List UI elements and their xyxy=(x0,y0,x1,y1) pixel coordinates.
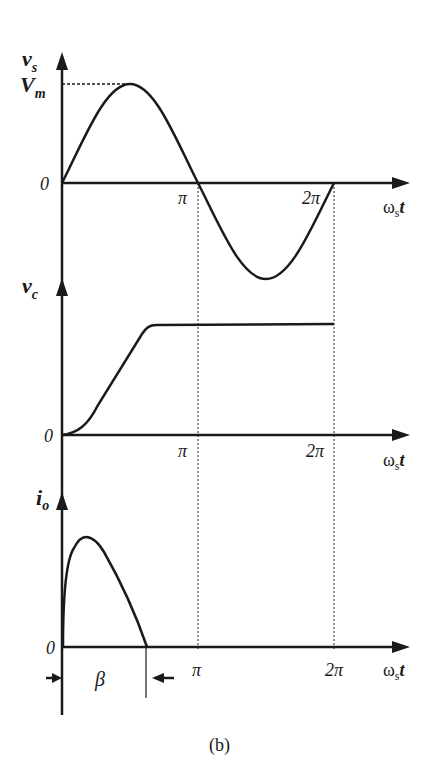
vc-x-axis-arrow-icon xyxy=(392,429,410,441)
vs-pi-tick: π xyxy=(178,188,188,208)
vs-x-label: ωst xyxy=(383,197,406,220)
io-2pi-tick: 2π xyxy=(325,660,344,680)
vc-zero-label: 0 xyxy=(44,426,53,446)
vs-axis-arrow-icon xyxy=(56,52,68,70)
beta-left-arrow-icon xyxy=(52,673,62,683)
vs-curve xyxy=(62,84,334,279)
beta-right-arrow-icon xyxy=(152,673,164,683)
io-pi-tick: π xyxy=(192,660,202,680)
io-curve xyxy=(63,537,147,647)
vc-pi-tick: π xyxy=(178,441,188,461)
io-zero-label: 0 xyxy=(46,638,55,658)
vc-x-label: ωst xyxy=(383,450,406,473)
vc-axis-arrow-icon xyxy=(56,278,68,296)
io-x-label: ωst xyxy=(383,660,406,683)
beta-label: β xyxy=(94,668,105,691)
io-ylabel: io xyxy=(36,485,49,513)
vm-label: Vm xyxy=(20,72,46,101)
vc-ylabel: vc xyxy=(22,273,39,302)
waveform-diagram: vs Vm 0 π 2π ωst vc 0 π 2π ωst io 0 π 2π… xyxy=(0,0,429,774)
vs-zero-label: 0 xyxy=(40,174,49,194)
vs-2pi-tick: 2π xyxy=(302,188,321,208)
io-axis-arrow-icon xyxy=(56,492,68,510)
vc-2pi-tick: 2π xyxy=(306,441,325,461)
vs-x-axis-arrow-icon xyxy=(392,177,410,189)
io-x-axis-arrow-icon xyxy=(392,641,410,653)
figure-caption: (b) xyxy=(209,735,230,756)
vs-ylabel: vs xyxy=(22,46,38,75)
